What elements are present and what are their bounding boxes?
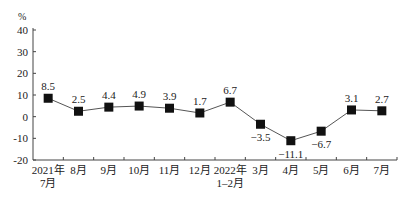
x-ticks: 2021年7月8月9月10月11月12月2022年1–2月3月4月5月6月7月 [32,157,397,189]
data-point-marker [165,104,174,113]
x-tick-label: 2022年 [214,163,247,176]
y-tick-label: 0 [23,111,29,123]
y-tick-label: 20 [17,67,29,79]
data-point-marker [317,127,326,136]
y-tick-label: 30 [17,46,29,58]
y-tick-label: 40 [17,24,29,36]
data-point-marker [44,94,53,103]
data-point-marker [104,103,113,112]
x-tick-label: 12月 [189,164,211,176]
series-line [48,98,382,140]
series [44,94,387,145]
data-label: 2.5 [72,93,86,105]
x-tick-label: 11月 [159,164,181,176]
data-label: −11.1 [278,148,303,160]
x-tick-label: 2021年 [32,163,65,176]
x-tick-label: 4月 [283,164,300,176]
data-label: 8.5 [41,80,55,92]
data-point-marker [347,105,356,114]
data-point-marker [286,136,295,145]
data-point-marker [135,102,144,111]
data-label: 1.7 [193,95,207,107]
y-tick-label: -20 [13,154,28,166]
data-point-marker [377,106,386,115]
data-label: 3.1 [345,92,359,104]
data-label: 2.7 [375,93,389,105]
data-point-marker [256,120,265,129]
y-tick-label: -10 [13,132,28,144]
data-label: 4.9 [132,88,146,100]
x-tick-label: 5月 [313,164,330,176]
axes: % [18,11,397,160]
x-tick-label: 7月 [40,177,57,189]
data-label: −3.5 [251,131,271,143]
data-point-marker [226,98,235,107]
data-point-marker [74,107,83,116]
x-tick-label: 7月 [374,164,391,176]
y-tick-label: 10 [17,89,29,101]
x-tick-label: 3月 [252,164,269,176]
x-tick-label: 1–2月 [216,177,244,189]
x-tick-label: 8月 [70,164,87,176]
line-chart: % 403020100-10-20 2021年7月8月9月10月11月12月20… [0,0,409,200]
data-label: 3.9 [163,90,177,102]
data-label: −6.7 [311,138,331,150]
x-tick-label: 6月 [343,164,360,176]
x-tick-label: 10月 [128,164,150,176]
data-label: 4.4 [102,89,116,101]
data-point-marker [195,108,204,117]
x-tick-label: 9月 [101,164,118,176]
y-unit-label: % [18,11,26,22]
data-label: 6.7 [223,84,237,96]
